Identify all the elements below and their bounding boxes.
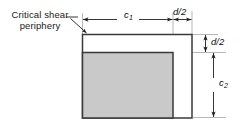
critical-shear-periphery-figure: Critical shear periphery c1 d/2 d/2 c2 xyxy=(0,0,245,128)
dimension-label-d-over-2-top: d/2 xyxy=(173,6,186,17)
column-section-rect xyxy=(83,53,174,119)
dimension-label-c2: c2 xyxy=(219,77,228,88)
dimension-label-c2-subscript: 2 xyxy=(224,82,228,89)
callout-label-line2: periphery xyxy=(4,20,76,31)
dimension-label-c1: c1 xyxy=(124,9,133,20)
callout-label-line1: Critical shear xyxy=(4,9,76,20)
dimension-label-d-over-2-right: d/2 xyxy=(211,36,224,47)
callout-label: Critical shear periphery xyxy=(4,9,76,31)
dimension-label-c1-subscript: 1 xyxy=(129,14,133,21)
